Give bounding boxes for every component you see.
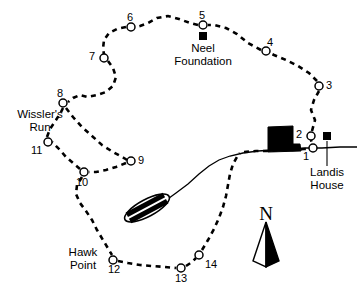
pond-feature <box>121 189 173 227</box>
neel-foundation-label: Neel Foundation <box>174 42 232 68</box>
stop-marker-6[interactable] <box>127 23 135 31</box>
trail-segment-7-8 <box>68 61 116 102</box>
neel-foundation-label-line2: Foundation <box>174 55 232 68</box>
landis-house-label-line1: Landis <box>310 166 344 179</box>
wisslers-run-label: Wissler's Run <box>17 108 63 134</box>
wisslers-run-label-line1: Wissler's <box>17 108 63 121</box>
stop-marker-5[interactable] <box>199 21 207 29</box>
compass-rose <box>253 222 279 267</box>
stop-label-3: 3 <box>326 79 332 91</box>
trail-segment-13-14 <box>186 258 196 266</box>
trail-segment-12-13 <box>118 261 176 268</box>
hawk-point-label-line1: Hawk <box>69 246 98 259</box>
trail-segment-5-6 <box>136 16 198 27</box>
stop-label-7: 7 <box>89 50 95 62</box>
trail-segment-2-3 <box>311 91 319 131</box>
stop-marker-8[interactable] <box>59 99 67 107</box>
stop-label-12: 12 <box>108 263 120 275</box>
stop-label-1: 1 <box>303 150 309 162</box>
trail-segment-10-11 <box>52 142 80 169</box>
compass-arrow-west-half <box>253 222 266 267</box>
stop-marker-14[interactable] <box>195 251 203 259</box>
stop-label-14: 14 <box>205 258 217 270</box>
stop-label-6: 6 <box>127 11 133 23</box>
compass-arrow-east-half <box>266 222 279 267</box>
trail-segment-6-7 <box>103 27 126 54</box>
stop-marker-11[interactable] <box>44 138 52 146</box>
stop-marker-2[interactable] <box>307 132 315 140</box>
stop-marker-3[interactable] <box>315 82 323 90</box>
stop-label-10: 10 <box>76 176 88 188</box>
stop-label-4: 4 <box>267 36 273 48</box>
landis-house-marker <box>323 132 331 140</box>
neel-foundation-marker <box>199 32 207 40</box>
stop-marker-13[interactable] <box>177 264 185 272</box>
stop-marker-1[interactable] <box>309 144 317 152</box>
landis-house-label: Landis House <box>310 166 344 192</box>
trail-segment-10-12 <box>76 177 112 255</box>
compass-north-label: N <box>259 203 273 224</box>
stop-label-13: 13 <box>175 272 187 284</box>
hawk-point-label-line2: Point <box>69 259 98 272</box>
trail-segment-9-10 <box>89 163 126 172</box>
stop-label-5: 5 <box>199 9 205 21</box>
wisslers-run-label-line2: Run <box>17 121 63 134</box>
stop-marker-9[interactable] <box>127 157 135 165</box>
hawk-point-label: Hawk Point <box>69 246 98 272</box>
landis-house-label-line2: House <box>310 179 344 192</box>
trail-segment-3-4 <box>270 53 317 81</box>
trail-segment-8-9 <box>66 108 127 160</box>
stop-marker-7[interactable] <box>100 54 108 62</box>
neel-foundation-label-line1: Neel <box>174 42 232 55</box>
trail-map: 1 2 3 4 5 6 7 8 9 10 11 12 13 14 Neel Fo… <box>0 0 357 295</box>
stop-label-2: 2 <box>296 128 302 140</box>
stop-label-11: 11 <box>31 144 42 156</box>
stop-marker-10[interactable] <box>80 168 88 176</box>
stop-label-9: 9 <box>138 154 144 166</box>
stop-label-8: 8 <box>57 87 63 99</box>
